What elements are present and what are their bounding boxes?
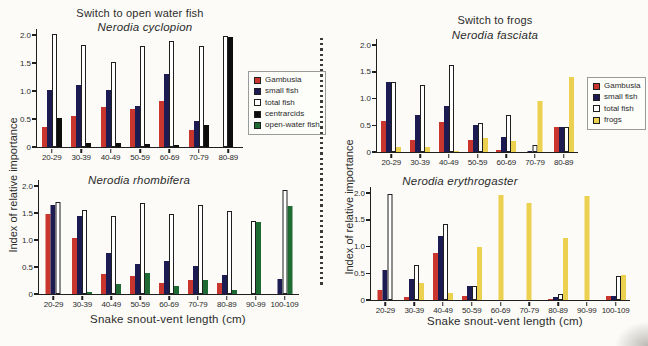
- y-tick-label: 0: [345, 148, 371, 157]
- column-header-left: Switch to open water fish: [40, 7, 240, 19]
- x-tick: [563, 154, 565, 158]
- bar-group: [433, 224, 453, 301]
- category-label: 70-79: [520, 306, 539, 315]
- panel-title-fasciata: Nerodia fasciata: [395, 29, 595, 41]
- bar-centrarcids: [204, 125, 209, 147]
- y-tick: [366, 192, 372, 194]
- y-tick-label: 1.0: [7, 236, 33, 245]
- y-tick-label: 1.5: [7, 209, 33, 218]
- x-tick: [615, 302, 617, 306]
- x-tick: [82, 296, 84, 300]
- bar-group: [498, 195, 503, 300]
- category-label: 100-109: [271, 300, 299, 309]
- category-label: 50-59: [468, 158, 487, 167]
- x-tick: [51, 149, 53, 153]
- legend-label: total fish: [604, 105, 634, 114]
- category-label: 30-39: [71, 153, 90, 162]
- bar-group: [548, 238, 568, 300]
- legend-label: small fish: [265, 87, 298, 96]
- legend-swatch: [254, 99, 261, 106]
- bar-group: [378, 194, 393, 300]
- x-tick: [169, 149, 171, 153]
- legend-swatch: [593, 105, 600, 112]
- legend-swatch: [254, 111, 261, 118]
- y-tick: [372, 125, 378, 127]
- bar-group: [189, 46, 209, 147]
- category-label: 30-39: [404, 306, 423, 315]
- bar-centrarcids: [174, 145, 179, 147]
- y-tick-label: 0.5: [7, 263, 33, 272]
- category-label: 40-49: [101, 153, 120, 162]
- bar-centrarcids: [116, 143, 121, 147]
- bar-group: [410, 85, 430, 152]
- bar-centrarcids: [57, 118, 62, 147]
- legend-item: centrarcids: [254, 110, 320, 119]
- x-tick: [168, 296, 170, 300]
- legend-label: total fish: [265, 99, 295, 108]
- x-tick: [477, 154, 479, 158]
- x-tick: [419, 154, 421, 158]
- legend-swatch: [254, 122, 261, 129]
- y-tick: [372, 44, 378, 46]
- legend-swatch: [254, 88, 261, 95]
- bar-frogs: [454, 151, 459, 152]
- category-label: 60-69: [160, 153, 179, 162]
- category-label: 70-79: [188, 300, 207, 309]
- bar-total-fish: [443, 224, 448, 301]
- chart-panel-erythrogaster: 00.51.01.52.020-2930-3940-4950-5960-6970…: [370, 193, 630, 301]
- legend-item: Gambusia: [593, 82, 640, 91]
- category-label: 80-89: [554, 158, 573, 167]
- bar-total-fish: [388, 194, 393, 300]
- panel-title-erythrogaster: Nerodia erythrogaster: [360, 175, 560, 187]
- x-tick: [53, 296, 55, 300]
- bar-group: [46, 202, 61, 294]
- x-axis-label-right: Snake snout-vent length (cm): [405, 315, 605, 327]
- x-tick: [110, 149, 112, 153]
- bar-total-fish: [227, 211, 232, 294]
- y-tick: [34, 185, 40, 187]
- bar-open-water-fish: [145, 273, 150, 294]
- y-tick-label: 2.0: [339, 189, 365, 198]
- legend-swatch: [254, 77, 261, 84]
- chart-panel-cyclopion: 00.51.01.52.020-2930-3940-4950-5960-6970…: [36, 35, 243, 148]
- bar-open-water-fish: [87, 292, 92, 294]
- y-tick: [32, 62, 38, 64]
- y-tick-label: 1.5: [345, 67, 371, 76]
- x-tick: [471, 302, 473, 306]
- x-tick: [500, 302, 502, 306]
- bar-group: [159, 214, 179, 294]
- y-tick-label: 0.5: [339, 269, 365, 278]
- bar-group: [130, 46, 150, 147]
- y-tick-label: 1.0: [5, 87, 31, 96]
- bar-group: [71, 45, 91, 147]
- x-tick: [226, 296, 228, 300]
- category-label: 50-59: [130, 153, 149, 162]
- y-tick-label: 1.0: [345, 94, 371, 103]
- bar-frogs: [511, 141, 516, 152]
- bar-open-water-fish: [116, 284, 121, 294]
- x-tick: [505, 154, 507, 158]
- y-tick: [34, 212, 40, 214]
- bar-group: [223, 36, 233, 147]
- chart-panel-rhombifera: 00.51.01.52.020-2930-3940-4950-5960-6970…: [38, 186, 299, 295]
- legend-swatch: [593, 94, 600, 101]
- bar-group: [439, 65, 459, 152]
- bar-total-fish: [111, 62, 116, 147]
- bar-frogs: [477, 247, 482, 301]
- legend-right: Gambusiasmall fishtotal fishfrogs: [587, 77, 646, 130]
- bar-total-fish: [82, 210, 87, 294]
- bar-group: [251, 221, 261, 294]
- bar-centrarcids: [228, 37, 233, 147]
- bar-open-water-fish: [287, 206, 292, 294]
- x-tick: [385, 302, 387, 306]
- y-tick-label: 2.0: [345, 41, 371, 50]
- bar-group: [277, 190, 292, 294]
- legend-swatch: [593, 83, 600, 90]
- category-label: 90-99: [577, 306, 596, 315]
- y-tick-label: 0.5: [345, 121, 371, 130]
- bar-total-fish: [449, 65, 454, 152]
- bar-total-fish: [81, 45, 86, 147]
- y-tick-label: 2.0: [7, 182, 33, 191]
- bar-total-fish: [140, 46, 145, 147]
- category-label: 40-49: [101, 300, 120, 309]
